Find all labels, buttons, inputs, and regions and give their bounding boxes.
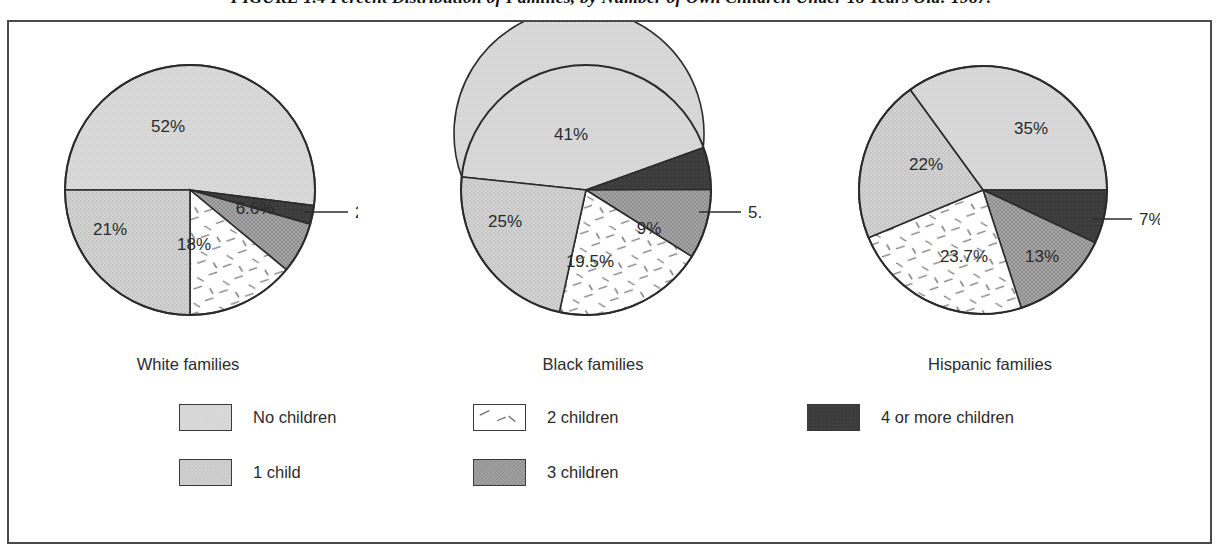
slice-label-no-children: 41% xyxy=(554,125,588,144)
callout-label-four-or-more-children: 7% xyxy=(1139,210,1160,229)
slice-label-two-children: 18% xyxy=(177,235,211,254)
legend-item-two-children[interactable]: 2 children xyxy=(473,404,619,431)
legend-label-three-children: 3 children xyxy=(547,463,619,482)
pie-slice-no-children xyxy=(65,65,315,206)
legend-item-three-children[interactable]: 3 children xyxy=(473,459,619,486)
figure-title: FIGURE 1.4 Percent Distribution of Famil… xyxy=(0,0,1222,8)
legend-swatch-one-child xyxy=(179,459,232,486)
slice-label-three-children: 6.6% xyxy=(236,199,275,218)
slice-label-two-children: 19.5% xyxy=(566,252,614,271)
legend-swatch-two-children xyxy=(473,404,526,431)
pie-caption-white-families: White families xyxy=(18,355,358,374)
slice-label-one-child: 22% xyxy=(909,155,943,174)
callout-label-four-or-more-children: 2.4% xyxy=(355,203,358,222)
figure-frame: 52% 21% 18% 6.6% 2.4% White families 41%… xyxy=(7,20,1212,544)
legend-label-four-or-more-children: 4 or more children xyxy=(881,408,1014,427)
pie-caption-hispanic-families: Hispanic families xyxy=(820,355,1160,374)
slice-label-no-children: 52% xyxy=(151,117,185,136)
slice-label-one-child: 25% xyxy=(488,212,522,231)
slice-label-one-child: 21% xyxy=(93,220,127,239)
callout-label-four-or-more-children: 5.6% xyxy=(748,203,763,222)
pie-chart-black-families: 41% 25% 19.5% 9% 5.6% Black families xyxy=(423,22,763,362)
legend: No children 1 child 2 children 3 childre… xyxy=(179,404,1079,514)
legend-label-no-children: No children xyxy=(253,408,336,427)
legend-item-one-child[interactable]: 1 child xyxy=(179,459,301,486)
legend-label-two-children: 2 children xyxy=(547,408,619,427)
pie-caption-black-families: Black families xyxy=(423,355,763,374)
legend-label-one-child: 1 child xyxy=(253,463,301,482)
pie-svg-black-families: 41% 25% 19.5% 9% 5.6% xyxy=(423,22,763,362)
pie-chart-white-families: 52% 21% 18% 6.6% 2.4% White families xyxy=(18,22,358,362)
pie-chart-hispanic-families: 35% 22% 23.7% 13% 7% Hispanic families xyxy=(820,22,1160,362)
legend-item-four-or-more-children[interactable]: 4 or more children xyxy=(807,404,1014,431)
pie-svg-white-families: 52% 21% 18% 6.6% 2.4% xyxy=(18,22,358,362)
pie-slice-one-child xyxy=(65,190,190,315)
slice-label-three-children: 9% xyxy=(637,219,662,238)
pie-svg-hispanic-families: 35% 22% 23.7% 13% 7% xyxy=(820,22,1160,362)
legend-swatch-no-children xyxy=(179,404,232,431)
legend-swatch-three-children xyxy=(473,459,526,486)
slice-label-no-children: 35% xyxy=(1014,119,1048,138)
legend-swatch-four-or-more-children xyxy=(807,404,860,431)
legend-item-no-children[interactable]: No children xyxy=(179,404,336,431)
slice-label-two-children: 23.7% xyxy=(940,247,988,266)
slice-label-three-children: 13% xyxy=(1025,247,1059,266)
